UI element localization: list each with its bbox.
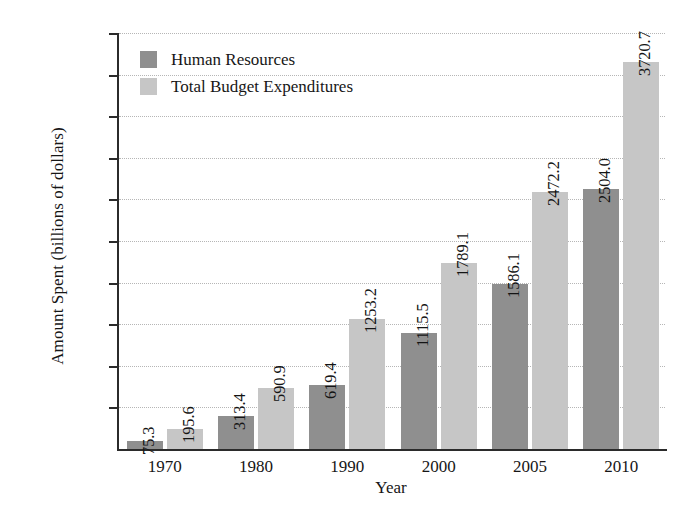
- legend-item: Total Budget Expenditures: [140, 73, 410, 100]
- y-axis-tick: [109, 324, 118, 326]
- bar-value-label: 75.3: [139, 427, 159, 455]
- bar: [623, 62, 659, 449]
- y-axis-tick: [109, 407, 118, 409]
- x-axis-tick-label: 2010: [566, 457, 676, 477]
- bar-value-label: 1115.5: [413, 303, 433, 347]
- bar: [583, 189, 619, 449]
- y-axis-tick: [109, 158, 118, 160]
- y-axis-tick: [109, 283, 118, 285]
- bar-value-label: 590.9: [270, 365, 290, 402]
- legend-color-swatch: [140, 78, 157, 95]
- bar-value-label: 1789.1: [453, 232, 473, 277]
- bar-value-label: 195.6: [179, 406, 199, 443]
- y-axis-tick: [109, 33, 118, 35]
- x-axis-title: Year: [117, 478, 665, 498]
- gridline: [119, 33, 665, 34]
- bar: [349, 319, 385, 449]
- y-axis-tick: [109, 241, 118, 243]
- bar-value-label: 2504.0: [595, 158, 615, 203]
- bar-value-label: 3720.7: [635, 31, 655, 76]
- y-axis-title: Amount Spent (billions of dollars): [48, 36, 68, 456]
- chart-legend: Human ResourcesTotal Budget Expenditures: [140, 46, 410, 100]
- legend-label: Total Budget Expenditures: [171, 77, 353, 97]
- bar: [401, 333, 437, 449]
- y-axis-tick: [109, 75, 118, 77]
- bar-value-label: 313.4: [230, 394, 250, 431]
- bar-value-label: 1253.2: [361, 288, 381, 333]
- x-axis-line: [117, 449, 667, 451]
- bar-value-label: 2472.2: [544, 161, 564, 206]
- legend-item: Human Resources: [140, 46, 410, 73]
- bar: [492, 284, 528, 449]
- y-axis-tick: [109, 116, 118, 118]
- y-axis-tick: [109, 199, 118, 201]
- bar: [441, 263, 477, 449]
- gridline: [119, 116, 665, 117]
- bar: [532, 192, 568, 449]
- bar-value-label: 1586.1: [504, 253, 524, 298]
- y-axis-tick: [109, 366, 118, 368]
- bar-chart: Amount Spent (billions of dollars) $400$…: [0, 0, 678, 508]
- legend-label: Human Resources: [171, 50, 295, 70]
- gridline: [119, 158, 665, 159]
- legend-color-swatch: [140, 51, 157, 68]
- bar-value-label: 619.4: [321, 362, 341, 399]
